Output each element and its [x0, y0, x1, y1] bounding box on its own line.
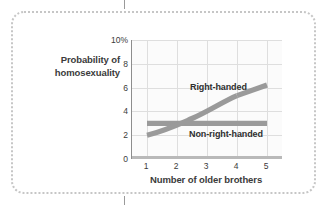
- y-tick-label: 10%: [104, 35, 128, 45]
- series-label-right-handed: Right-handed: [190, 82, 247, 92]
- x-axis-tick-labels: 1 2 3 4 5: [131, 161, 281, 174]
- y-axis-tick-labels: 10% 8 6 4 2 0: [104, 40, 128, 159]
- x-tick-label: 1: [144, 161, 149, 171]
- plot-inner: Right-handed Non-right-handed: [132, 40, 282, 159]
- crop-mark-bottom: [124, 196, 125, 205]
- y-tick-label: 8: [104, 59, 128, 69]
- x-axis-title: Number of older brothers: [131, 174, 281, 185]
- series-plot: [132, 40, 282, 159]
- x-tick-label: 2: [174, 161, 179, 171]
- y-tick-label: 6: [104, 83, 128, 93]
- plot-area: Right-handed Non-right-handed: [131, 40, 282, 159]
- crop-mark-top: [124, 0, 125, 9]
- x-tick-label: 3: [204, 161, 209, 171]
- x-tick-label: 4: [234, 161, 239, 171]
- x-axis-line: [132, 156, 282, 159]
- x-tick-label: 5: [264, 161, 269, 171]
- y-tick-label: 0: [104, 154, 128, 164]
- series-label-non-right-handed: Non-right-handed: [189, 129, 263, 139]
- y-tick-label: 2: [104, 130, 128, 140]
- y-tick-label: 4: [104, 106, 128, 116]
